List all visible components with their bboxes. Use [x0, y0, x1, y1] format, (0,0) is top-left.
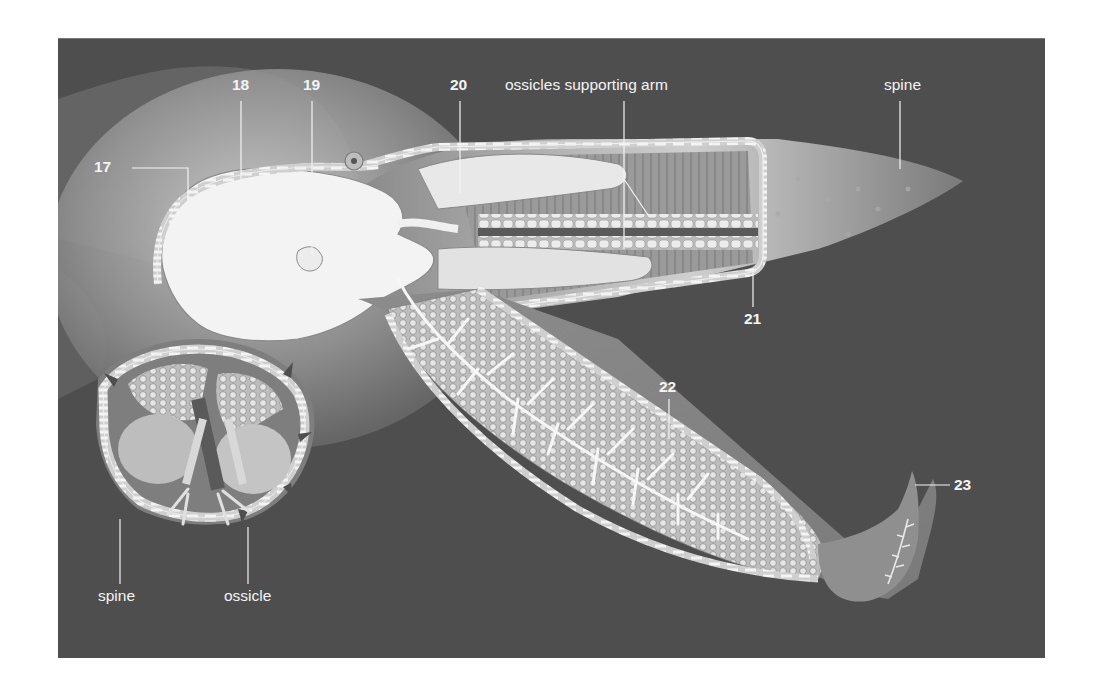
label-spine-cross-section: spine — [98, 588, 135, 604]
sea-star-illustration — [58, 39, 1045, 658]
label-ossicle: ossicle — [224, 588, 271, 604]
label-23: 23 — [954, 477, 971, 493]
label-22: 22 — [659, 379, 676, 395]
label-20: 20 — [450, 77, 467, 93]
label-ossicles-supporting-arm: ossicles supporting arm — [505, 77, 668, 93]
label-18: 18 — [232, 77, 249, 93]
label-spine-arm-tip: spine — [884, 77, 921, 93]
label-21: 21 — [744, 311, 761, 327]
diagram-frame: 17 18 19 20 ossicles supporting arm spin… — [58, 38, 1045, 658]
label-17: 17 — [94, 159, 111, 175]
label-19: 19 — [303, 77, 320, 93]
